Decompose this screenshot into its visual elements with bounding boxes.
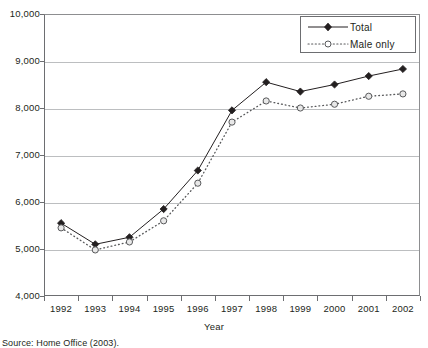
- y-axis-tick-mark: [40, 14, 44, 15]
- chart-legend: Total Male only: [300, 16, 416, 53]
- y-axis-tick-mark: [40, 61, 44, 62]
- x-axis-tick-mark: [283, 296, 284, 301]
- x-axis-tick-label: 1992: [44, 303, 78, 314]
- y-axis-tick-label: 9,000: [0, 55, 40, 66]
- plot-area: [44, 14, 420, 296]
- x-axis-tick-label: 1999: [283, 303, 317, 314]
- source-note: Source: Home Office (2003).: [2, 338, 119, 348]
- x-axis-tick-mark: [386, 296, 387, 301]
- x-axis-tick-mark: [420, 296, 421, 301]
- x-axis-tick-label: 1998: [249, 303, 283, 314]
- legend-label-male-only: Male only: [350, 39, 395, 50]
- x-axis-tick-mark: [147, 296, 148, 301]
- x-axis-tick-label: 2000: [317, 303, 351, 314]
- x-axis-tick-label: 1997: [215, 303, 249, 314]
- x-axis-tick-label: 2001: [352, 303, 386, 314]
- x-axis-tick-mark: [112, 296, 113, 301]
- x-axis-tick-mark: [249, 296, 250, 301]
- y-axis-tick-mark: [40, 249, 44, 250]
- gridline: [45, 203, 419, 204]
- x-axis-tick-mark: [215, 296, 216, 301]
- gridline: [45, 109, 419, 110]
- y-axis-tick-mark: [40, 155, 44, 156]
- legend-swatch-male-only: [306, 37, 350, 51]
- line-chart-figure: 4,0005,0006,0007,0008,0009,00010,000 199…: [0, 0, 428, 348]
- y-axis-tick-label: 4,000: [0, 290, 40, 301]
- x-axis-tick-label: 1995: [147, 303, 181, 314]
- y-axis-tick-label: 6,000: [0, 196, 40, 207]
- legend-label-total: Total: [350, 22, 372, 33]
- y-axis-tick-label: 7,000: [0, 149, 40, 160]
- y-axis-tick-mark: [40, 202, 44, 203]
- gridline: [45, 62, 419, 63]
- x-axis-tick-mark: [78, 296, 79, 301]
- y-axis-tick-label: 8,000: [0, 102, 40, 113]
- y-axis-tick-label: 5,000: [0, 243, 40, 254]
- y-axis-tick-label: 10,000: [0, 8, 40, 19]
- x-axis-tick-mark: [352, 296, 353, 301]
- x-axis-tick-mark: [44, 296, 45, 301]
- x-axis-tick-mark: [181, 296, 182, 301]
- x-axis-tick-mark: [317, 296, 318, 301]
- x-axis-tick-label: 1996: [181, 303, 215, 314]
- x-axis-tick-label: 1994: [112, 303, 146, 314]
- x-axis-title: Year: [0, 321, 428, 332]
- x-axis-tick-label: 1993: [78, 303, 112, 314]
- legend-entry-male-only[interactable]: Male only: [301, 36, 415, 52]
- gridline: [45, 156, 419, 157]
- x-axis-tick-label: 2002: [386, 303, 420, 314]
- y-axis-tick-mark: [40, 108, 44, 109]
- legend-swatch-total: [306, 20, 350, 34]
- legend-entry-total[interactable]: Total: [301, 19, 415, 35]
- gridline: [45, 250, 419, 251]
